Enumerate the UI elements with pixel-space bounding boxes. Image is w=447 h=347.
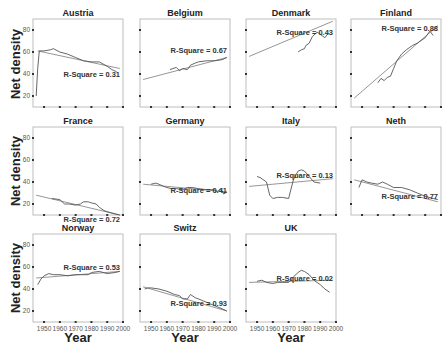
x-tick-mark <box>150 214 152 216</box>
x-tick-mark <box>256 321 258 323</box>
y-tick-label: 60 <box>23 156 31 163</box>
x-tick-mark <box>256 106 258 108</box>
y-tick-mark <box>139 29 141 31</box>
y-tick-label: 40 <box>23 285 31 292</box>
x-tick-mark <box>272 214 274 216</box>
panel-germany: GermanyR-Square = 0.41 <box>139 116 231 216</box>
y-tick-mark <box>139 266 141 268</box>
y-tick-mark <box>139 244 141 246</box>
x-tick-mark <box>213 214 215 216</box>
panel-title: Switz <box>173 223 197 233</box>
panel-title: Italy <box>282 116 300 126</box>
panel-frame <box>33 127 123 215</box>
x-tick-mark <box>229 214 231 216</box>
panel-frame <box>140 127 230 215</box>
x-tick-mark <box>319 214 321 216</box>
y-tick-label: 20 <box>23 92 31 99</box>
x-tick-mark <box>75 106 77 108</box>
panel-neth: NethR-Square = 0.77 <box>350 116 442 216</box>
y-axis-label-row1: Net density <box>8 28 23 99</box>
y-tick-mark <box>350 137 352 139</box>
density-series-line <box>38 271 120 284</box>
x-tick-mark <box>197 214 199 216</box>
y-tick-mark <box>139 203 141 205</box>
panel-frame <box>33 19 123 107</box>
y-tick-mark <box>245 51 247 53</box>
fit-line <box>38 51 120 69</box>
r-square-label: R-Square = 0.88 <box>382 24 438 33</box>
y-tick-mark <box>139 310 141 312</box>
panel-denmark: DenmarkR-Square = 0.43 <box>245 8 337 108</box>
fit-line <box>249 21 333 56</box>
y-tick-mark <box>32 288 34 290</box>
panel-title: Neth <box>386 116 406 126</box>
y-tick-mark <box>32 29 34 31</box>
y-tick-label: 80 <box>23 241 31 248</box>
panel-title: UK <box>285 223 298 233</box>
x-tick-mark <box>229 321 231 323</box>
x-axis-label-col2: Year <box>171 330 198 345</box>
x-tick-label: 2000 <box>329 325 344 332</box>
y-tick-mark <box>245 244 247 246</box>
x-tick-mark <box>59 106 61 108</box>
x-tick-mark <box>440 214 442 216</box>
y-tick-mark <box>350 203 352 205</box>
y-tick-mark <box>32 181 34 183</box>
y-tick-mark <box>245 203 247 205</box>
y-tick-label: 40 <box>23 70 31 77</box>
y-tick-mark <box>32 203 34 205</box>
r-square-label: R-Square = 0.67 <box>171 46 227 55</box>
x-tick-mark <box>303 321 305 323</box>
x-tick-label: 1950 <box>37 325 52 332</box>
r-square-label: R-Square = 0.53 <box>64 263 120 272</box>
r-square-label: R-Square = 0.77 <box>382 192 438 201</box>
x-tick-mark <box>361 214 363 216</box>
y-tick-mark <box>139 159 141 161</box>
y-tick-mark <box>32 73 34 75</box>
x-tick-mark <box>272 321 274 323</box>
x-tick-mark <box>182 106 184 108</box>
y-tick-label: 20 <box>23 307 31 314</box>
x-tick-mark <box>122 321 124 323</box>
r-square-label: R-Square = 0.31 <box>64 70 120 79</box>
x-tick-label: 1990 <box>207 325 222 332</box>
y-tick-mark <box>245 137 247 139</box>
x-tick-mark <box>197 321 199 323</box>
panel-belgium: BelgiumR-Square = 0.67 <box>139 8 231 108</box>
y-tick-mark <box>350 51 352 53</box>
y-tick-mark <box>32 310 34 312</box>
x-tick-mark <box>335 214 337 216</box>
x-tick-mark <box>106 106 108 108</box>
x-tick-mark <box>440 106 442 108</box>
y-tick-label: 60 <box>23 48 31 55</box>
panel-italy: ItalyR-Square = 0.13 <box>245 116 337 216</box>
x-tick-mark <box>303 106 305 108</box>
panel-norway: Norway20406080195019601970198019902000R-… <box>23 223 131 332</box>
panel-switz: Switz195019601970198019902000R-Square = … <box>139 223 238 332</box>
y-tick-mark <box>32 137 34 139</box>
r-square-label: R-Square = 0.43 <box>277 28 333 37</box>
x-tick-mark <box>213 106 215 108</box>
y-tick-mark <box>350 181 352 183</box>
y-tick-mark <box>245 266 247 268</box>
y-tick-mark <box>245 310 247 312</box>
panel-frame <box>351 127 441 215</box>
y-tick-label: 60 <box>23 263 31 270</box>
y-tick-mark <box>245 73 247 75</box>
x-tick-mark <box>424 106 426 108</box>
x-tick-label: 1950 <box>144 325 159 332</box>
panel-frame <box>33 234 123 322</box>
x-tick-mark <box>166 321 168 323</box>
x-tick-mark <box>75 321 77 323</box>
x-tick-mark <box>335 106 337 108</box>
x-tick-mark <box>197 106 199 108</box>
panel-title: Germany <box>165 116 204 126</box>
y-tick-mark <box>32 51 34 53</box>
panel-uk: UK195019601970198019902000R-Square = 0.0… <box>245 223 344 332</box>
y-tick-mark <box>245 95 247 97</box>
y-tick-mark <box>139 73 141 75</box>
y-axis-label-row2: Net density <box>8 135 23 206</box>
x-tick-label: 1950 <box>250 325 265 332</box>
x-tick-mark <box>166 214 168 216</box>
y-tick-mark <box>245 159 247 161</box>
